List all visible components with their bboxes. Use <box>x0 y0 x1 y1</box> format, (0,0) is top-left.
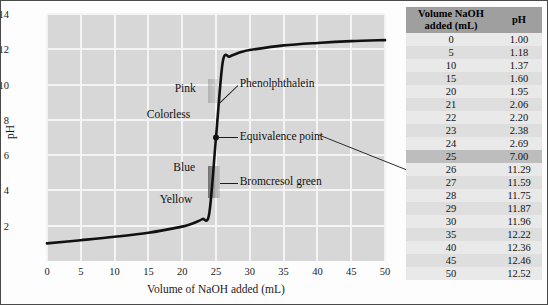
table-row: 3512.22 <box>406 228 542 241</box>
table-row: 2811.75 <box>406 189 542 202</box>
cell-volume: 26 <box>406 163 496 176</box>
table-header: Volume NaOH added (mL) pH <box>406 7 542 33</box>
column-header-volume: Volume NaOH added (mL) <box>406 7 496 33</box>
cell-volume: 21 <box>406 98 496 111</box>
y-tick-label: 14 <box>0 9 9 20</box>
leader-line-bromcresol-green <box>220 183 238 184</box>
cell-volume: 50 <box>406 267 496 280</box>
table-row: 4512.46 <box>406 254 542 267</box>
annotation-blue: Blue <box>173 161 195 173</box>
cell-volume: 35 <box>406 228 496 241</box>
x-tick-label: 25 <box>201 266 231 277</box>
cell-volume: 23 <box>406 124 496 137</box>
cell-ph: 1.37 <box>496 59 542 72</box>
cell-ph: 7.00 <box>496 150 542 163</box>
table-row: 51.18 <box>406 46 542 59</box>
x-axis-label: Volume of NaOH added (mL) <box>47 283 385 295</box>
y-tick-label: 2 <box>0 220 9 231</box>
plot-area: Pink Colorless Blue Yellow Phenolphthale… <box>47 14 385 261</box>
cell-volume: 5 <box>406 46 496 59</box>
column-header-volume-line1: Volume NaOH <box>418 8 484 19</box>
annotation-equivalence-point: Equivalence point <box>240 130 323 142</box>
x-tick-label: 45 <box>336 266 366 277</box>
table-body: 01.0051.18101.37151.60201.95212.06222.20… <box>406 33 542 280</box>
cell-volume: 28 <box>406 189 496 202</box>
titration-curve <box>47 14 385 261</box>
x-tick-label: 30 <box>235 266 265 277</box>
y-tick-label: 12 <box>0 44 9 55</box>
x-tick-label: 40 <box>302 266 332 277</box>
cell-ph: 1.00 <box>496 33 542 46</box>
cell-volume: 24 <box>406 137 496 150</box>
table-row: 5012.52 <box>406 267 542 280</box>
cell-ph: 12.22 <box>496 228 542 241</box>
cell-volume: 25 <box>406 150 496 163</box>
cell-ph: 2.20 <box>496 111 542 124</box>
annotation-phenolphthalein: Phenolphthalein <box>240 77 315 89</box>
cell-ph: 2.06 <box>496 98 542 111</box>
column-header-ph: pH <box>496 7 542 33</box>
annotation-bromcresol-green: Bromcresol green <box>240 175 322 187</box>
titration-data-table: Volume NaOH added (mL) pH 01.0051.18101.… <box>406 7 542 280</box>
cell-ph: 11.75 <box>496 189 542 202</box>
titration-chart: Pink Colorless Blue Yellow Phenolphthale… <box>1 1 401 305</box>
table-row: 212.06 <box>406 98 542 111</box>
cell-ph: 11.59 <box>496 176 542 189</box>
annotation-yellow: Yellow <box>160 193 193 205</box>
cell-volume: 22 <box>406 111 496 124</box>
table-row: 4012.36 <box>406 241 542 254</box>
table-row: 151.60 <box>406 72 542 85</box>
cell-ph: 12.52 <box>496 267 542 280</box>
table-row: 242.69 <box>406 137 542 150</box>
table-row: 201.95 <box>406 85 542 98</box>
table-row: 01.00 <box>406 33 542 46</box>
table-row: 232.38 <box>406 124 542 137</box>
cell-ph: 1.60 <box>496 72 542 85</box>
x-tick-label: 10 <box>100 266 130 277</box>
x-tick-label: 35 <box>269 266 299 277</box>
y-axis-label: pH <box>4 125 16 139</box>
cell-volume: 30 <box>406 215 496 228</box>
cell-volume: 40 <box>406 241 496 254</box>
table-row: 2711.59 <box>406 176 542 189</box>
y-tick-label: 4 <box>0 185 9 196</box>
cell-volume: 20 <box>406 85 496 98</box>
annotation-pink: Pink <box>175 82 196 94</box>
cell-ph: 11.87 <box>496 202 542 215</box>
cell-ph: 2.38 <box>496 124 542 137</box>
annotation-colorless: Colorless <box>147 108 190 120</box>
table-row: 2611.29 <box>406 163 542 176</box>
y-tick-label: 8 <box>0 114 9 125</box>
cell-volume: 10 <box>406 59 496 72</box>
x-tick-label: 15 <box>133 266 163 277</box>
cell-ph: 12.46 <box>496 254 542 267</box>
curve-path <box>47 40 385 243</box>
leader-line-equivalence-point <box>218 137 238 138</box>
titration-figure: Pink Colorless Blue Yellow Phenolphthale… <box>0 0 548 305</box>
table-row: 3011.96 <box>406 215 542 228</box>
cell-volume: 29 <box>406 202 496 215</box>
cell-ph: 12.36 <box>496 241 542 254</box>
y-tick-label: 6 <box>0 150 9 161</box>
table-row: 101.37 <box>406 59 542 72</box>
x-tick-label: 20 <box>167 266 197 277</box>
y-tick-label: 10 <box>0 79 9 90</box>
table-row: 2911.87 <box>406 202 542 215</box>
cell-volume: 45 <box>406 254 496 267</box>
table-row: 222.20 <box>406 111 542 124</box>
table-header-row: Volume NaOH added (mL) pH <box>406 7 542 33</box>
cell-volume: 27 <box>406 176 496 189</box>
cell-ph: 1.95 <box>496 85 542 98</box>
x-tick-label: 0 <box>32 266 62 277</box>
column-header-volume-line2: added (mL) <box>425 20 478 31</box>
x-tick-label: 5 <box>66 266 96 277</box>
cell-ph: 11.29 <box>496 163 542 176</box>
cell-ph: 2.69 <box>496 137 542 150</box>
cell-ph: 1.18 <box>496 46 542 59</box>
cell-volume: 0 <box>406 33 496 46</box>
cell-volume: 15 <box>406 72 496 85</box>
cell-ph: 11.96 <box>496 215 542 228</box>
x-tick-label: 50 <box>370 266 400 277</box>
table-row: 257.00 <box>406 150 542 163</box>
